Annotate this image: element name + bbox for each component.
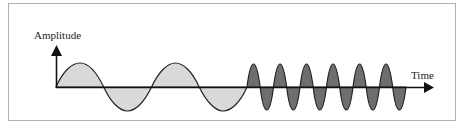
waveform-diagram <box>0 0 468 128</box>
y-axis-label: Amplitude <box>34 29 81 41</box>
x-axis-arrow-icon <box>424 82 434 93</box>
x-axis-label: Time <box>411 69 434 81</box>
y-axis-arrow-icon <box>51 45 62 56</box>
